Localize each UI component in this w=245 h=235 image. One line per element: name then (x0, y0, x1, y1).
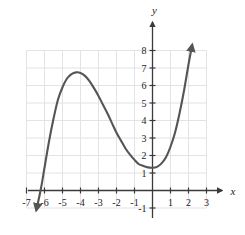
x-tick-label: -5 (58, 197, 66, 208)
y-axis-label: y (151, 4, 157, 16)
y-tick-label: 5 (142, 98, 147, 109)
x-tick-label: -4 (76, 197, 84, 208)
x-tick-label: 3 (204, 197, 209, 208)
x-tick-label: 1 (168, 197, 173, 208)
y-tick-label: 1 (142, 168, 147, 179)
x-tick-label: -7 (22, 197, 30, 208)
y-tick-label: 4 (142, 115, 147, 126)
y-tick-label: 2 (142, 150, 147, 161)
x-tick-label: 2 (186, 197, 191, 208)
x-axis-label: x (230, 185, 236, 197)
x-tick-label: -3 (94, 197, 102, 208)
grid-lines (27, 51, 207, 209)
y-tick-label: 8 (142, 45, 147, 56)
y-tick-label: 6 (142, 80, 147, 91)
y-tick-label: 3 (142, 133, 147, 144)
y-tick-label: -1 (138, 203, 146, 214)
x-tick-label: -2 (112, 197, 120, 208)
axis-names: xy (151, 4, 236, 197)
x-tick-label: -6 (40, 197, 48, 208)
coordinate-plane-graph: -7-6-5-4-3-2-1123-112345678 xy (0, 0, 245, 235)
y-tick-label: 7 (142, 63, 147, 74)
curve-path (36, 45, 192, 210)
function-curve (36, 45, 192, 210)
